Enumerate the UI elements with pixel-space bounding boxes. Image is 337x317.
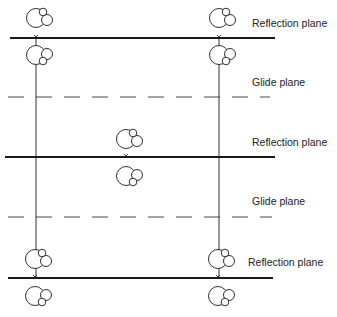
label-glide-plane-1: Glide plane <box>252 76 305 88</box>
symmetry-diagram <box>0 0 337 317</box>
small-atom <box>222 57 230 65</box>
molecule-icon <box>117 167 143 186</box>
molecule-icon <box>27 46 53 65</box>
molecule-icon <box>210 8 236 27</box>
small-atom <box>221 298 229 306</box>
planes-layer <box>5 38 275 278</box>
small-atom <box>38 298 46 306</box>
molecule-icon <box>209 249 235 268</box>
small-atom <box>129 129 137 137</box>
label-reflection-plane-2: Reflection plane <box>252 136 327 148</box>
molecule-icon <box>26 249 52 268</box>
molecule-icon <box>210 46 236 65</box>
molecule-icon <box>26 287 52 306</box>
small-atom <box>39 57 47 65</box>
label-reflection-plane-1: Reflection plane <box>252 17 327 29</box>
molecule-icon <box>117 129 143 148</box>
molecule-icon <box>27 8 53 27</box>
label-glide-plane-2: Glide plane <box>252 195 305 207</box>
small-atom <box>221 249 229 257</box>
small-atom <box>222 8 230 16</box>
molecule-icon <box>209 287 235 306</box>
small-atom <box>38 249 46 257</box>
small-atom <box>39 8 47 16</box>
small-atom <box>129 178 137 186</box>
label-reflection-plane-3: Reflection plane <box>248 256 323 268</box>
